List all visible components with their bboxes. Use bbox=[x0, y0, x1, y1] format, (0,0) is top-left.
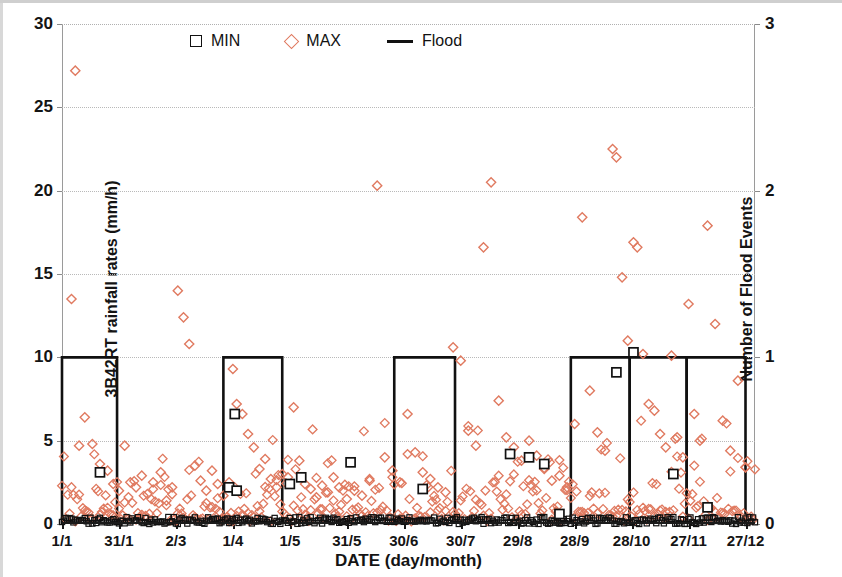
legend-entry: MIN bbox=[190, 32, 240, 50]
max-scatter-series bbox=[58, 66, 760, 526]
max-data-point bbox=[655, 429, 664, 438]
x-tick-label: 30/6 bbox=[389, 532, 418, 549]
max-data-point bbox=[481, 486, 490, 495]
max-data-point bbox=[675, 484, 684, 493]
max-data-point bbox=[449, 343, 458, 352]
max-data-point bbox=[173, 286, 182, 295]
max-data-point bbox=[213, 479, 222, 488]
max-data-point bbox=[669, 506, 678, 515]
min-data-point bbox=[285, 480, 294, 489]
max-data-point bbox=[380, 419, 389, 428]
max-data-point bbox=[585, 386, 594, 395]
max-data-point bbox=[733, 376, 742, 385]
y-tick-label-left: 0 bbox=[44, 514, 53, 534]
max-data-point bbox=[713, 494, 722, 503]
legend-entry: MAX bbox=[286, 32, 341, 50]
max-data-point bbox=[471, 441, 480, 450]
max-data-point bbox=[255, 464, 264, 473]
max-data-point bbox=[418, 468, 427, 477]
max-data-point bbox=[202, 486, 211, 495]
y-tick-label-left: 15 bbox=[34, 264, 53, 284]
max-data-point bbox=[608, 144, 617, 153]
max-data-point bbox=[684, 299, 693, 308]
max-data-point bbox=[403, 450, 412, 459]
legend-label: MAX bbox=[306, 32, 341, 50]
max-data-point bbox=[479, 243, 488, 252]
max-data-point bbox=[542, 494, 551, 503]
max-data-point bbox=[671, 434, 680, 443]
y-tick-label-left: 30 bbox=[34, 14, 53, 34]
max-data-point bbox=[90, 450, 99, 459]
y-tick-label-left: 25 bbox=[34, 97, 53, 117]
min-data-point bbox=[703, 503, 712, 512]
max-data-point bbox=[405, 495, 414, 504]
x-tick-label: 27/12 bbox=[727, 532, 765, 549]
max-data-point bbox=[486, 178, 495, 187]
max-data-point bbox=[101, 491, 110, 500]
max-data-point bbox=[329, 473, 338, 482]
flood-step-block bbox=[62, 357, 117, 524]
max-data-point bbox=[249, 443, 258, 452]
max-data-point bbox=[751, 465, 760, 474]
min-data-point bbox=[95, 468, 104, 477]
y-tick-mark-right bbox=[755, 24, 760, 25]
plot-area: 051015202530 0123 1/131/12/31/41/531/530… bbox=[62, 24, 755, 524]
x-tick-mark bbox=[347, 524, 349, 529]
min-data-point bbox=[629, 348, 638, 357]
max-data-point bbox=[80, 413, 89, 422]
min-data-point bbox=[232, 486, 241, 495]
min-data-point bbox=[555, 510, 564, 519]
max-data-point bbox=[413, 503, 422, 512]
max-data-point bbox=[403, 409, 412, 418]
max-data-point bbox=[578, 213, 587, 222]
x-tick-label: 29/8 bbox=[503, 532, 532, 549]
max-data-point bbox=[74, 441, 83, 450]
max-data-point bbox=[179, 313, 188, 322]
y-tick-mark-right bbox=[755, 191, 760, 192]
max-data-point bbox=[357, 491, 366, 500]
x-tick-label: 30/7 bbox=[446, 532, 475, 549]
max-data-point bbox=[75, 490, 84, 499]
x-tick-label: 1/4 bbox=[222, 532, 243, 549]
max-data-point bbox=[617, 273, 626, 282]
max-data-point bbox=[667, 351, 676, 360]
max-data-point bbox=[473, 426, 482, 435]
legend-label: MIN bbox=[211, 32, 240, 50]
max-data-point bbox=[690, 461, 699, 470]
x-tick-label: 31/1 bbox=[104, 532, 133, 549]
max-data-point bbox=[623, 336, 632, 345]
y-tick-label-right: 3 bbox=[765, 14, 774, 34]
max-data-point bbox=[644, 399, 653, 408]
max-data-point bbox=[120, 441, 129, 450]
min-scatter-series bbox=[59, 348, 757, 527]
max-data-point bbox=[243, 429, 252, 438]
y-tick-label-left: 20 bbox=[34, 181, 53, 201]
max-data-point bbox=[67, 294, 76, 303]
max-data-point bbox=[114, 486, 123, 495]
y-tick-label-right: 1 bbox=[765, 347, 774, 367]
legend-label: Flood bbox=[422, 32, 462, 50]
min-data-point bbox=[612, 368, 621, 377]
max-data-point bbox=[711, 319, 720, 328]
max-data-point bbox=[207, 466, 216, 475]
min-data-point bbox=[540, 460, 549, 469]
x-tick-label: 28/9 bbox=[560, 532, 589, 549]
max-data-point bbox=[388, 466, 397, 475]
max-data-point bbox=[380, 453, 389, 462]
max-data-point bbox=[71, 66, 80, 75]
x-tick-label: 2/3 bbox=[165, 532, 186, 549]
x-axis-title: DATE (day/month) bbox=[62, 551, 755, 571]
legend-entry: Flood bbox=[387, 32, 462, 50]
max-data-point bbox=[312, 473, 321, 482]
legend-square-icon bbox=[190, 35, 202, 47]
min-data-point bbox=[669, 470, 678, 479]
max-data-point bbox=[88, 439, 97, 448]
max-data-point bbox=[308, 425, 317, 434]
max-data-point bbox=[268, 436, 277, 445]
y-tick-label-right: 0 bbox=[765, 514, 774, 534]
max-data-point bbox=[359, 427, 368, 436]
max-data-point bbox=[734, 454, 743, 463]
max-data-point bbox=[124, 493, 133, 502]
max-data-point bbox=[547, 476, 556, 485]
max-data-point bbox=[593, 428, 602, 437]
